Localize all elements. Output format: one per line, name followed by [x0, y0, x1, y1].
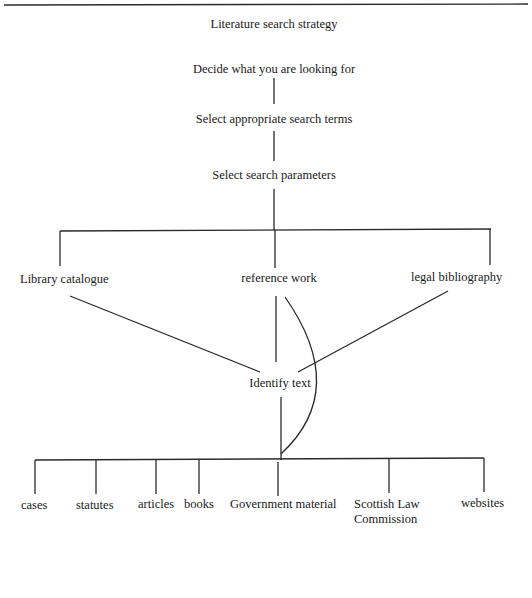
- materials-bar: [35, 458, 484, 460]
- material-cases: cases: [21, 498, 47, 513]
- scottish-line-2: Commission: [354, 512, 420, 527]
- source-legal-bibliography: legal bibliography: [411, 270, 502, 285]
- material-websites: websites: [461, 496, 504, 511]
- step-search-parameters: Select search parameters: [212, 168, 336, 183]
- identify-text: Identify text: [249, 376, 310, 391]
- bibliography-to-identify: [298, 291, 448, 372]
- material-books: books: [184, 497, 214, 512]
- scottish-line-1: Scottish Law: [354, 497, 420, 512]
- source-reference-work: reference work: [241, 271, 316, 286]
- material-articles: articles: [138, 497, 174, 512]
- library-to-identify: [70, 296, 260, 372]
- material-scottish-law-commission: Scottish Law Commission: [354, 497, 420, 527]
- step-decide: Decide what you are looking for: [193, 62, 355, 77]
- step-search-terms: Select appropriate search terms: [196, 112, 353, 127]
- source-library-catalogue: Library catalogue: [20, 272, 109, 287]
- material-statutes: statutes: [76, 498, 114, 513]
- top-rule: [4, 4, 528, 5]
- diagram-title: Literature search strategy: [210, 17, 337, 32]
- material-government: Government material: [230, 497, 337, 512]
